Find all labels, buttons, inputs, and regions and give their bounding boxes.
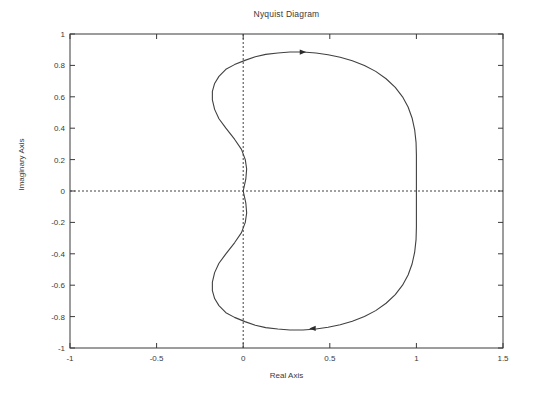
x-tick-label: 0 (241, 354, 246, 363)
y-tick-label: 0 (61, 187, 66, 196)
nyquist-figure: Nyquist Diagram -1-0.500.511.5 10.80.60.… (0, 0, 533, 393)
x-axis-ticks: -1-0.500.511.5 (66, 34, 509, 363)
x-tick-label: 1 (414, 354, 419, 363)
direction-arrow-lower-icon (309, 326, 315, 331)
y-tick-label: 1 (61, 30, 66, 39)
x-tick-label: -1 (66, 354, 74, 363)
y-tick-label: -0.8 (51, 313, 65, 322)
plot-canvas: -1-0.500.511.5 10.80.60.40.20-0.2-0.4-0.… (0, 0, 533, 393)
y-tick-label: -0.4 (51, 250, 65, 259)
x-tick-label: -0.5 (150, 354, 164, 363)
y-tick-label: -0.6 (51, 281, 65, 290)
direction-arrow-markers (300, 49, 316, 331)
y-tick-label: -0.2 (51, 218, 65, 227)
y-tick-label: 0.2 (54, 156, 66, 165)
x-tick-label: 0.5 (324, 354, 336, 363)
x-tick-label: 1.5 (497, 354, 509, 363)
x-axis-label: Real Axis (70, 371, 503, 380)
direction-arrow-upper-icon (300, 49, 306, 54)
zero-reference-lines (70, 34, 503, 348)
y-tick-label: 0.4 (54, 124, 66, 133)
y-tick-label: -1 (58, 344, 66, 353)
y-tick-label: 0.6 (54, 93, 66, 102)
y-axis-label: Imaginary Axis (17, 115, 26, 215)
y-tick-label: 0.8 (54, 61, 66, 70)
